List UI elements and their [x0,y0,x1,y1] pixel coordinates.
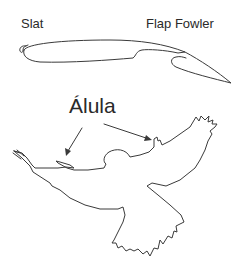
diagram-canvas [0,0,239,265]
airfoil [20,40,231,83]
arrow-right-head [144,135,152,141]
alula-label: Álula [69,94,116,118]
bird-outline [14,116,217,256]
flap-fowler-label: Flap Fowler [146,16,214,31]
arrow-left-head [65,148,71,156]
arrow-right-line [104,124,146,138]
arrow-left-line [68,128,82,151]
bird [13,116,217,256]
airfoil-main-body [24,40,185,62]
slat-label: Slat [21,16,43,31]
fowler-flap [172,52,232,83]
alula-arrows [65,124,152,156]
